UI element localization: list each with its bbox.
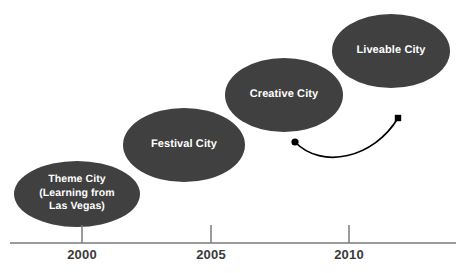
connector-start-dot-icon (291, 138, 298, 145)
connector-end-square-icon (395, 115, 401, 121)
diagram-canvas: Theme City(Learning fromLas Vegas) Festi… (0, 0, 464, 273)
axis-tick-label-2005: 2005 (181, 247, 241, 262)
node-ellipse-festival-city[interactable] (123, 108, 245, 182)
node-ellipse-liveable-city[interactable] (332, 14, 450, 88)
axis-tick-label-2000: 2000 (52, 247, 112, 262)
node-ellipse-theme-city[interactable] (14, 161, 140, 227)
node-shapes (14, 14, 450, 227)
axis-tick-label-2010: 2010 (319, 247, 379, 262)
node-ellipse-creative-city[interactable] (225, 58, 343, 132)
diagram-graphics (0, 0, 464, 273)
axis-group (10, 225, 456, 243)
